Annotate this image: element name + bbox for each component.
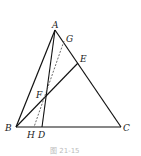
segment-ad xyxy=(42,30,55,127)
label-h: H xyxy=(26,130,35,140)
segment-gh-dashed xyxy=(34,41,64,127)
label-b: B xyxy=(4,123,12,133)
label-g: G xyxy=(66,34,73,44)
segment-ab xyxy=(16,30,55,127)
label-e: E xyxy=(79,54,87,64)
label-a: A xyxy=(51,20,59,30)
label-d: D xyxy=(37,130,45,140)
triangle-abc xyxy=(16,30,121,127)
label-c: C xyxy=(123,123,130,133)
segment-be xyxy=(16,63,78,127)
label-f: F xyxy=(35,90,43,100)
segment-ca xyxy=(55,30,121,127)
figure-caption: 图 21-15 xyxy=(50,147,80,155)
geometry-diagram: A G E F B H D C 图 21-15 xyxy=(0,0,141,156)
